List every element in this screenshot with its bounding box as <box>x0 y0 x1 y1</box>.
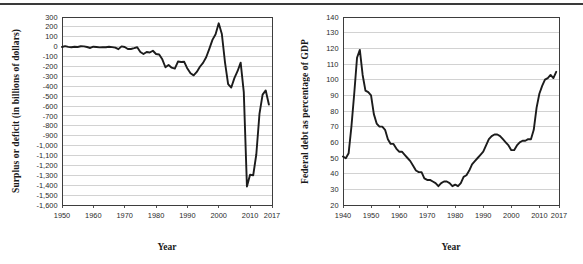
plot-frame <box>62 17 272 205</box>
y-tick-label: -400 <box>43 82 58 91</box>
y-tick-label: -800 <box>43 121 58 130</box>
figure-surplus-deficit: Surplus or deficit (in billions of dolla… <box>0 0 292 264</box>
y-tick-label: 50 <box>330 154 338 163</box>
y-tick-label: -1,200 <box>37 161 58 170</box>
data-series-line <box>343 50 556 186</box>
y-tick-label: 300 <box>45 13 57 22</box>
y-tick-label: -1,400 <box>37 181 58 190</box>
x-tick-label: 2017 <box>551 211 567 220</box>
x-tick-label: 2017 <box>264 211 280 220</box>
y-tick-label: 140 <box>326 13 338 22</box>
chart-canvas-federal-debt-gdp: 1401301201101009080706050403020194019501… <box>291 0 583 264</box>
y-tick-label: -600 <box>43 102 58 111</box>
y-tick-label: 100 <box>45 32 57 41</box>
x-tick-label: 1960 <box>85 211 101 220</box>
figure-federal-debt-gdp: Federal debt as percentage of GDP 140130… <box>291 0 583 264</box>
y-tick-label: -1,300 <box>37 171 58 180</box>
x-tick-label: 2010 <box>531 211 547 220</box>
y-tick-label: -900 <box>43 131 58 140</box>
x-tick-label: 1950 <box>363 211 379 220</box>
x-tick-label: 2010 <box>242 211 258 220</box>
x-axis-label-federal-debt-gdp: Year <box>343 242 559 252</box>
chart-canvas-surplus-deficit: 3002001000-100-200-300-400-500-600-700-8… <box>0 0 292 264</box>
y-tick-label: -200 <box>43 62 58 71</box>
y-tick-label: -1,600 <box>37 201 58 210</box>
y-tick-label: 130 <box>326 28 338 37</box>
x-tick-label: 1970 <box>116 211 132 220</box>
x-tick-label: 1980 <box>148 211 164 220</box>
y-tick-label: -100 <box>43 52 58 61</box>
x-tick-label: 1970 <box>419 211 435 220</box>
y-tick-label: 90 <box>330 91 338 100</box>
y-tick-label: 200 <box>45 22 57 31</box>
x-tick-label: 1990 <box>179 211 195 220</box>
y-tick-label: 110 <box>327 60 339 69</box>
y-tick-label: 100 <box>326 75 338 84</box>
x-axis-label-surplus-deficit: Year <box>62 242 272 252</box>
y-tick-label: 70 <box>330 122 338 131</box>
y-tick-label: -700 <box>43 112 58 121</box>
x-tick-label: 2000 <box>210 211 226 220</box>
y-tick-label: -500 <box>43 92 58 101</box>
x-tick-label: 1960 <box>391 211 407 220</box>
y-tick-label: -300 <box>43 72 58 81</box>
y-tick-label: 120 <box>326 44 338 53</box>
x-tick-label: 1990 <box>475 211 491 220</box>
x-tick-label: 1950 <box>54 211 70 220</box>
y-tick-label: 60 <box>330 138 338 147</box>
y-tick-label: 30 <box>330 185 338 194</box>
chart-page: Surplus or deficit (in billions of dolla… <box>0 0 583 264</box>
y-tick-label: -1,000 <box>37 141 58 150</box>
x-tick-label: 1980 <box>447 211 463 220</box>
x-tick-label: 1940 <box>335 211 351 220</box>
y-tick-label: 0 <box>53 42 57 51</box>
y-tick-label: 40 <box>330 169 338 178</box>
y-tick-label: 80 <box>330 107 338 116</box>
data-series-line <box>62 23 269 186</box>
y-tick-label: -1,500 <box>37 191 58 200</box>
x-tick-label: 2000 <box>503 211 519 220</box>
y-tick-label: -1,100 <box>37 151 58 160</box>
y-tick-label: 20 <box>330 201 338 210</box>
